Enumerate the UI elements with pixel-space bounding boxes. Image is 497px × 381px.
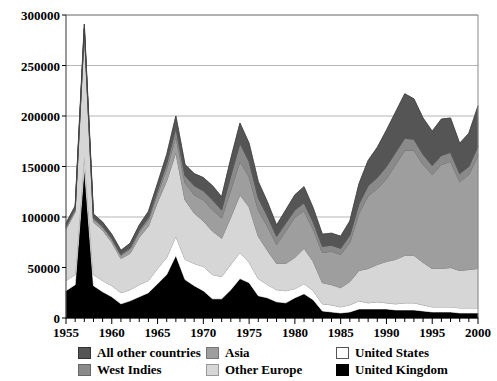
legend-item: United States [336,346,490,359]
x-axis-tick-label: 1955 [44,326,88,339]
legend-label: United Kingdom [355,363,448,376]
y-axis-tick-label: 250000 [0,60,60,73]
x-axis-tick-label: 1975 [227,326,271,339]
legend-swatch [206,364,219,376]
x-axis-tick-label: 1990 [364,326,408,339]
chart-canvas [0,0,497,381]
y-axis-tick-label: 150000 [0,161,60,174]
legend-label: Other Europe [225,363,302,376]
stacked-area-chart: 050000100000150000200000250000300000 195… [0,0,497,381]
legend-label: Asia [225,346,250,359]
y-axis-tick-label: 200000 [0,110,60,123]
x-axis-tick-label: 1960 [90,326,134,339]
x-axis-tick-label: 2000 [456,326,497,339]
x-axis-ticks [66,318,478,324]
legend-item: Other Europe [206,363,336,376]
legend-label: West Indies [97,363,162,376]
x-axis-tick-label: 1995 [410,326,454,339]
x-axis-tick-label: 1965 [136,326,180,339]
legend-item: West Indies [78,363,206,376]
legend-swatch [336,364,349,376]
legend-swatch [78,364,91,376]
legend-swatch [78,347,91,359]
legend-swatch [206,347,219,359]
y-axis-tick-label: 0 [0,312,60,325]
y-axis-tick-label: 100000 [0,211,60,224]
legend-item: All other countries [78,346,206,359]
chart-legend: All other countriesAsiaUnited StatesWest… [78,344,490,378]
legend-swatch [336,347,349,359]
x-axis-tick-label: 1970 [181,326,225,339]
legend-item: Asia [206,346,336,359]
y-axis-tick-label: 50000 [0,262,60,275]
legend-item: United Kingdom [336,363,490,376]
legend-label: United States [355,346,429,359]
x-axis-tick-label: 1985 [319,326,363,339]
y-axis-tick-label: 300000 [0,9,60,22]
legend-label: All other countries [97,346,201,359]
x-axis-tick-label: 1980 [273,326,317,339]
